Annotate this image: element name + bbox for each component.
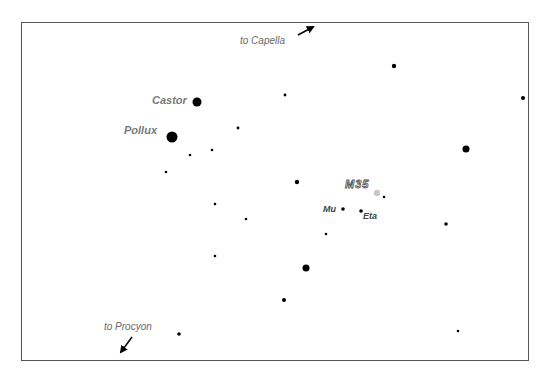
pointer-label-procyon: to Procyon [104, 322, 152, 332]
pointer-label-capella: to Capella [240, 36, 285, 46]
star-dot [521, 96, 525, 100]
star-label-pollux: Pollux [124, 125, 157, 136]
star-mu [341, 207, 345, 211]
star-label-eta: Eta [363, 212, 377, 221]
star-dot [295, 180, 299, 184]
star-dot [237, 127, 240, 130]
star-dot [303, 265, 310, 272]
pointer-arrow-icon [121, 337, 132, 352]
star-dot [392, 64, 396, 68]
star-dot [282, 298, 286, 302]
star-dot [165, 171, 168, 174]
cluster-m35 [374, 190, 380, 196]
pointer-arrows-layer [121, 27, 313, 352]
star-dot [457, 330, 460, 333]
star-dot [177, 332, 181, 336]
star-dot [214, 255, 217, 258]
star-dot [211, 149, 214, 152]
star-dot [189, 154, 192, 157]
star-dot [463, 146, 470, 153]
star-chart: to Capella to Procyon Castor Pollux Mu E… [0, 0, 551, 381]
pointer-arrow-icon [298, 27, 313, 35]
sky-canvas [0, 0, 551, 381]
star-dot [444, 222, 448, 226]
star-castor [193, 98, 202, 107]
star-label-castor: Castor [152, 95, 187, 106]
cluster-label-m35: M35 [345, 179, 369, 190]
star-pollux [167, 132, 178, 143]
star-dot [383, 196, 386, 199]
star-dot [284, 94, 287, 97]
star-label-mu: Mu [323, 205, 336, 214]
stars-layer [165, 64, 525, 336]
star-dot [245, 218, 248, 221]
star-dot [325, 233, 328, 236]
star-dot [214, 203, 217, 206]
